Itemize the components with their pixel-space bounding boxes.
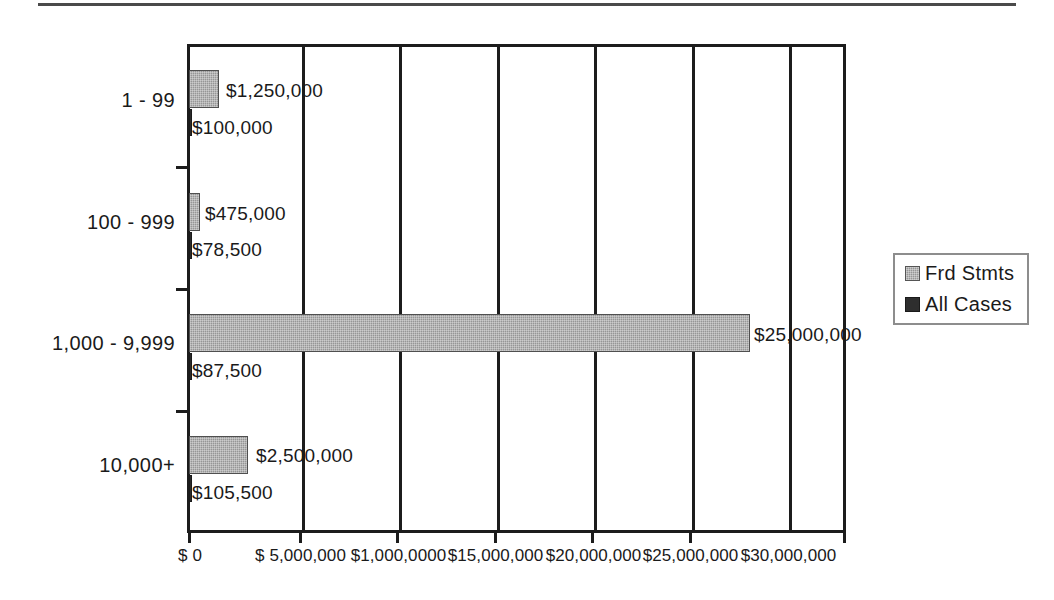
x-axis-tick-6 [843, 533, 846, 543]
category-label-2: 100 - 999 [20, 211, 175, 234]
x-axis-tick-2 [396, 533, 399, 543]
gridline-10000000 [399, 47, 402, 530]
gridline-30000000 [789, 47, 792, 530]
data-label-all-cases-100-999: $78,500 [192, 239, 262, 261]
bar-frd-stmts-1-99 [189, 70, 219, 108]
bar-frd-stmts-10000-plus [189, 436, 248, 474]
legend-swatch-icon-frd-stmts [905, 266, 920, 281]
data-label-all-cases-1-99: $100,000 [192, 117, 273, 139]
legend-item-all-cases: All Cases [905, 293, 1012, 316]
gridline-25000000 [692, 47, 695, 530]
y-axis-tick-2 [176, 288, 187, 291]
x-axis-tick-1 [299, 533, 302, 543]
page-rule [38, 3, 1016, 6]
gridline-15000000 [497, 47, 500, 530]
data-label-frd-stmts-100-999: $475,000 [205, 203, 286, 225]
category-label-3: 1,000 - 9,999 [20, 332, 175, 355]
legend-label-all-cases: All Cases [925, 293, 1012, 316]
chart-legend: Frd Stmts All Cases [893, 253, 1029, 325]
data-label-all-cases-1000-9999: $87,500 [192, 360, 262, 382]
legend-swatch-icon-all-cases [905, 297, 920, 312]
bar-frd-stmts-100-999 [189, 193, 200, 231]
x-axis-label-0: $ 0 [160, 546, 220, 566]
x-axis-tick-3 [494, 533, 497, 543]
y-axis-tick-3 [176, 410, 187, 413]
gridline-20000000 [594, 47, 597, 530]
chart-figure: 1 - 99 100 - 999 1,000 - 9,999 10,000+ $… [0, 0, 1054, 600]
x-axis-tick-4 [591, 533, 594, 543]
y-axis-tick-1 [176, 166, 187, 169]
category-label-1: 1 - 99 [20, 89, 175, 112]
data-label-all-cases-10000-plus: $105,500 [192, 482, 273, 504]
x-axis-label-6: $30,000,000 [721, 546, 856, 566]
category-label-4: 10,000+ [20, 454, 175, 477]
data-label-frd-stmts-10000-plus: $2,500,000 [256, 445, 353, 467]
x-axis-tick-0 [188, 533, 191, 543]
data-label-frd-stmts-1000-9999: $25,000,000 [754, 324, 862, 346]
data-label-frd-stmts-1-99: $1,250,000 [226, 80, 323, 102]
legend-label-frd-stmts: Frd Stmts [925, 262, 1014, 285]
x-axis-tick-5 [689, 533, 692, 543]
legend-item-frd-stmts: Frd Stmts [905, 262, 1014, 285]
bar-frd-stmts-1000-9999 [189, 314, 750, 352]
